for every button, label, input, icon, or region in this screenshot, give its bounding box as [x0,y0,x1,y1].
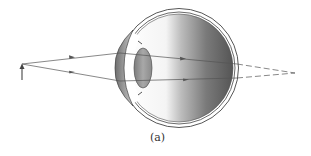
object-arrow [20,64,25,81]
ray-lower-extension [237,73,295,78]
crystalline-lens [134,48,152,88]
figure-caption: (a) [0,131,311,144]
ray-upper-extension [237,64,295,73]
eyeball [115,9,239,128]
